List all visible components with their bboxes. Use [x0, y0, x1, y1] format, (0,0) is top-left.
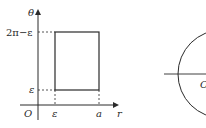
origin-label: O: [24, 108, 32, 119]
x-right-label: a: [96, 108, 102, 119]
y-top-label: 2π−ε: [6, 27, 33, 38]
circle-diagram: O: [164, 30, 206, 118]
x-left-label: ε: [52, 108, 57, 119]
diagram-canvas: θ 2π−ε ε O ε a r O: [0, 0, 206, 128]
r-axis-label: r: [117, 108, 123, 119]
theta-axis-label: θ: [28, 7, 34, 18]
rect-region-diagram: θ 2π−ε ε O ε a r: [6, 7, 123, 120]
region-rectangle: [55, 32, 99, 90]
circle-center-label: O: [200, 79, 206, 90]
y-bottom-label: ε: [29, 84, 34, 95]
